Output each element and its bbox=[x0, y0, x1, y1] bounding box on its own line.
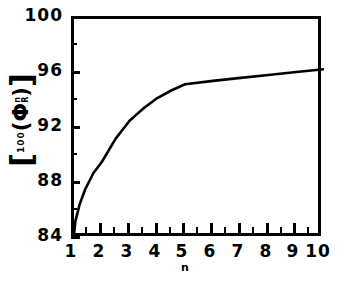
xtick-minor-9-5 bbox=[307, 227, 309, 236]
xtick-minor-4-5 bbox=[169, 227, 171, 236]
y-title-open-paren: ( bbox=[9, 122, 33, 132]
xtick-6 bbox=[210, 223, 213, 236]
xtick-minor-5-5 bbox=[196, 227, 198, 236]
y-title-hundred: 100 bbox=[16, 131, 26, 153]
y-title-close-paren: ) bbox=[9, 87, 33, 97]
y-title-subscript: R bbox=[22, 97, 30, 103]
y-title-phi-symbol: Φ bbox=[8, 103, 33, 122]
xtick-3 bbox=[127, 223, 130, 236]
curve-svg bbox=[74, 19, 324, 239]
xtick-7 bbox=[238, 223, 241, 236]
xtick-minor-6-5 bbox=[224, 227, 226, 236]
x-axis-title: n bbox=[165, 261, 205, 274]
xtick-minor-8-5 bbox=[280, 227, 282, 236]
ytick-minor-90 bbox=[71, 153, 77, 155]
plot-area bbox=[71, 16, 321, 236]
ytick-label-100: 100 bbox=[3, 7, 63, 24]
ytick-label-84: 84 bbox=[3, 227, 63, 244]
xtick-minor-7-5 bbox=[252, 227, 254, 236]
data-series-curve bbox=[74, 69, 324, 234]
xtick-minor-3-5 bbox=[141, 227, 143, 236]
xtick-9 bbox=[293, 223, 296, 236]
xtick-2 bbox=[99, 223, 102, 236]
xtick-4 bbox=[155, 223, 158, 236]
y-axis-title: [100(ΦnR)] bbox=[7, 50, 37, 190]
ytick-96 bbox=[71, 71, 80, 74]
ytick-minor-98 bbox=[71, 43, 77, 45]
ytick-92 bbox=[71, 126, 80, 129]
ytick-84 bbox=[71, 236, 80, 239]
ytick-minor-94 bbox=[71, 98, 77, 100]
xtick-10 bbox=[318, 223, 321, 236]
y-title-close-bracket: ] bbox=[4, 73, 39, 87]
ytick-88 bbox=[71, 181, 80, 184]
xtick-5 bbox=[182, 223, 185, 236]
xtick-label-10: 10 bbox=[298, 243, 338, 260]
y-title-open-bracket: [ bbox=[4, 153, 39, 167]
ytick-minor-86 bbox=[71, 208, 77, 210]
xtick-minor-1-5 bbox=[85, 227, 87, 236]
figure-chart-phi-vs-n: 100 96 92 88 84 1 2 3 4 5 6 7 8 9 10 n [… bbox=[0, 0, 346, 281]
xtick-1 bbox=[71, 223, 74, 236]
ytick-100 bbox=[71, 16, 80, 19]
y-title-scripts: nR bbox=[14, 97, 30, 103]
xtick-8 bbox=[266, 223, 269, 236]
xtick-minor-2-5 bbox=[113, 227, 115, 236]
